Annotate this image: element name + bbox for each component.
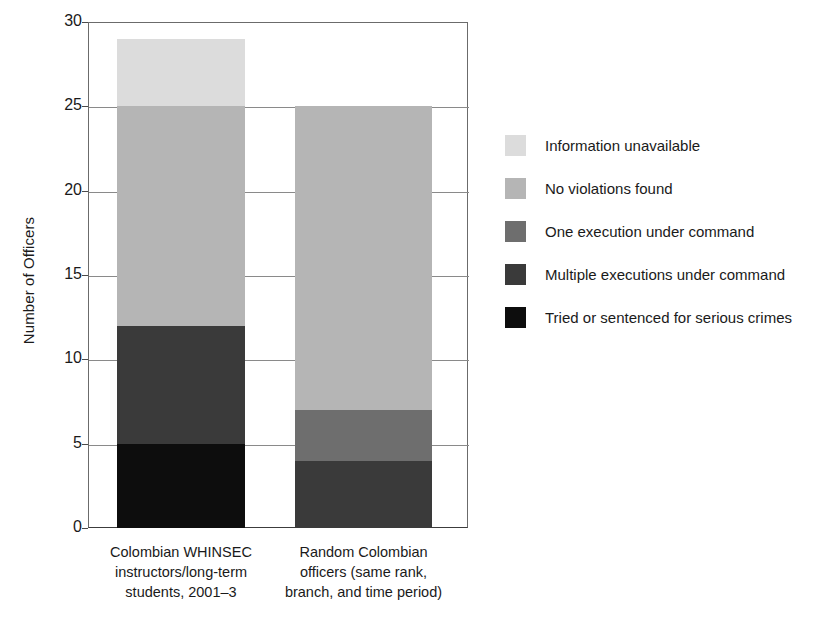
- x-axis-label-line: officers (same rank,: [259, 562, 469, 582]
- y-tick-label: 30: [42, 12, 82, 30]
- y-tick-label: 5: [42, 434, 82, 452]
- legend-label: Tried or sentenced for serious crimes: [545, 309, 792, 326]
- x-axis-label-line: Colombian WHINSEC: [76, 542, 286, 562]
- bar-segment: [295, 106, 432, 410]
- y-tick-label: 20: [42, 181, 82, 199]
- x-axis-label-line: instructors/long-term: [76, 562, 286, 582]
- y-tick-label: 25: [42, 96, 82, 114]
- legend-label: Information unavailable: [545, 137, 700, 154]
- stacked-bar-chart: Number of Officers 051015202530 Colombia…: [0, 0, 815, 624]
- legend-item[interactable]: Multiple executions under command: [505, 262, 785, 286]
- legend-label: Multiple executions under command: [545, 266, 785, 283]
- bar-segment: [295, 461, 432, 528]
- bar-2: [295, 106, 432, 528]
- y-tick-mark: [82, 191, 88, 192]
- y-axis-title: Number of Officers: [20, 181, 37, 381]
- legend-swatch-icon: [505, 307, 526, 328]
- x-axis-label-line: branch, and time period): [259, 582, 469, 602]
- legend-item[interactable]: Information unavailable: [505, 133, 700, 157]
- legend-swatch-icon: [505, 264, 526, 285]
- y-tick-label: 15: [42, 265, 82, 283]
- y-tick-mark: [82, 528, 88, 529]
- bar-segment: [117, 326, 245, 444]
- legend-label: One execution under command: [545, 223, 754, 240]
- bar-segment: [117, 106, 245, 325]
- y-tick-mark: [82, 275, 88, 276]
- y-tick-mark: [82, 444, 88, 445]
- legend-label: No violations found: [545, 180, 673, 197]
- bar-1: [117, 39, 245, 528]
- bar-segment: [295, 410, 432, 461]
- bar-segment: [117, 39, 245, 106]
- legend-swatch-icon: [505, 221, 526, 242]
- y-tick-label: 0: [42, 518, 82, 536]
- legend-item[interactable]: No violations found: [505, 176, 673, 200]
- y-tick-mark: [82, 22, 88, 23]
- y-tick-mark: [82, 106, 88, 107]
- legend-swatch-icon: [505, 135, 526, 156]
- legend-item[interactable]: Tried or sentenced for serious crimes: [505, 305, 792, 329]
- x-axis-label-line: students, 2001–3: [76, 582, 286, 602]
- y-tick-label: 10: [42, 349, 82, 367]
- x-axis-label-1: Colombian WHINSECinstructors/long-termst…: [76, 542, 286, 602]
- bar-segment: [117, 444, 245, 528]
- x-axis-label-2: Random Colombianofficers (same rank,bran…: [259, 542, 469, 602]
- legend-item[interactable]: One execution under command: [505, 219, 754, 243]
- legend-swatch-icon: [505, 178, 526, 199]
- x-axis-label-line: Random Colombian: [259, 542, 469, 562]
- y-tick-mark: [82, 359, 88, 360]
